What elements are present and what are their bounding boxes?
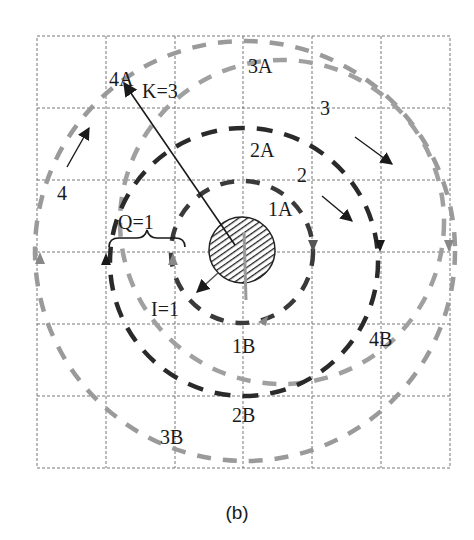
direction-arrow-2 — [322, 196, 352, 221]
label-3: 3 — [320, 97, 330, 119]
label-3B: 3B — [160, 426, 183, 448]
label-Q: Q=1 — [118, 211, 154, 233]
i-radius-arrow — [197, 273, 218, 292]
central-hatched-disk — [209, 217, 275, 283]
arrowhead-circle1-right — [308, 240, 318, 252]
arrowhead-circle3-right — [444, 240, 454, 252]
label-2: 2 — [297, 164, 307, 186]
orbit-circle-4 — [120, 60, 444, 384]
label-1A: 1A — [268, 198, 293, 220]
diagram-canvas: 4A K=3 3A 3 2A 2 1A 4 Q=1 I=1 1B 4B 2B 3… — [0, 0, 474, 540]
label-4A: 4A — [109, 68, 134, 90]
label-2B: 2B — [232, 404, 255, 426]
label-3A: 3A — [248, 55, 273, 77]
label-I: I=1 — [151, 298, 179, 320]
label-4B: 4B — [369, 328, 392, 350]
direction-arrow-3 — [355, 137, 392, 164]
label-1B: 1B — [232, 335, 255, 357]
gray-radial-marker — [244, 232, 246, 300]
figure-caption: (b) — [225, 502, 248, 523]
label-2A: 2A — [250, 139, 275, 161]
label-K: K=3 — [142, 80, 178, 102]
label-4: 4 — [57, 182, 67, 204]
